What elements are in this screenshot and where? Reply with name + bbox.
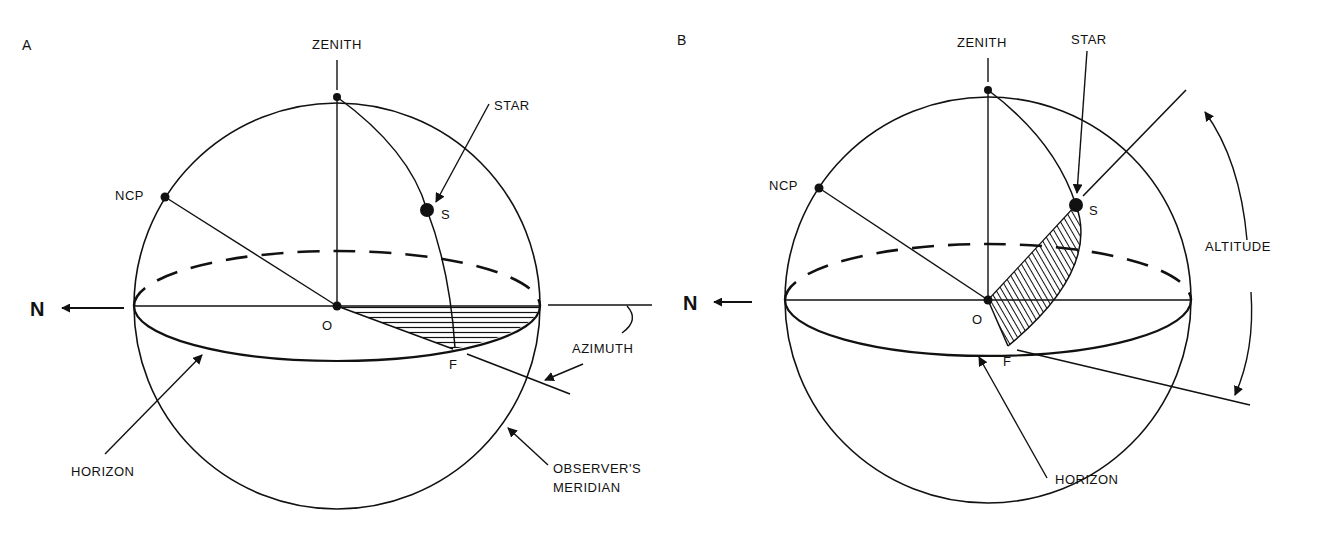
observer-point bbox=[333, 302, 342, 311]
horizon-pointer-arrow bbox=[105, 355, 202, 454]
meridian-label-line1: OBSERVER'S bbox=[553, 461, 641, 476]
ncp-label: NCP bbox=[115, 188, 144, 203]
azimuth-shaded-region bbox=[337, 306, 540, 349]
north-label: N bbox=[30, 298, 44, 320]
celestial-sphere-figure: A N ZENITH NCP O F bbox=[0, 0, 1322, 546]
ncp-label: NCP bbox=[769, 178, 798, 193]
star-label: STAR bbox=[494, 98, 530, 113]
north-label: N bbox=[683, 292, 697, 314]
horizon-label: HORIZON bbox=[71, 464, 134, 479]
f-label: F bbox=[1003, 354, 1011, 369]
altitude-label: ALTITUDE bbox=[1205, 239, 1271, 254]
star-point bbox=[1069, 198, 1083, 212]
panel-label-b: B bbox=[677, 32, 686, 48]
o-label: O bbox=[322, 318, 333, 333]
ncp-point bbox=[815, 184, 824, 193]
altitude-shaded-region bbox=[988, 205, 1081, 346]
s-label: S bbox=[1089, 203, 1098, 218]
meridian-pointer-arrow bbox=[508, 428, 548, 465]
o-label: O bbox=[972, 312, 983, 327]
horizon-pointer-arrow bbox=[979, 357, 1047, 478]
meridian-label-line2: MERIDIAN bbox=[553, 480, 621, 495]
horizon-front bbox=[785, 300, 1191, 356]
azimuth-label: AZIMUTH bbox=[572, 341, 633, 356]
star-point bbox=[420, 203, 434, 217]
horizon-direction-ray bbox=[1017, 350, 1250, 405]
azimuth-pointer-arrow bbox=[545, 364, 583, 380]
azimuth-arc-indicator bbox=[622, 306, 632, 333]
diagram-a: A N ZENITH NCP O F bbox=[22, 37, 652, 509]
altitude-arc-upper bbox=[1205, 112, 1247, 240]
f-label: F bbox=[449, 357, 457, 372]
altitude-base-ray bbox=[1016, 349, 1125, 405]
horizon-label: HORIZON bbox=[1055, 472, 1118, 487]
azimuth-ray bbox=[467, 354, 570, 394]
panel-label-a: A bbox=[22, 37, 32, 53]
star-direction-ray bbox=[1083, 90, 1186, 196]
star-pointer-arrow bbox=[436, 104, 489, 202]
s-label: S bbox=[441, 207, 450, 222]
altitude-arc-lower bbox=[1235, 292, 1252, 395]
zenith-label: ZENITH bbox=[312, 37, 362, 52]
observer-point bbox=[984, 296, 993, 305]
diagram-b: B N ZENITH NCP bbox=[677, 32, 1271, 503]
ncp-point bbox=[161, 193, 170, 202]
star-label: STAR bbox=[1071, 32, 1107, 47]
zenith-label: ZENITH bbox=[957, 35, 1007, 50]
